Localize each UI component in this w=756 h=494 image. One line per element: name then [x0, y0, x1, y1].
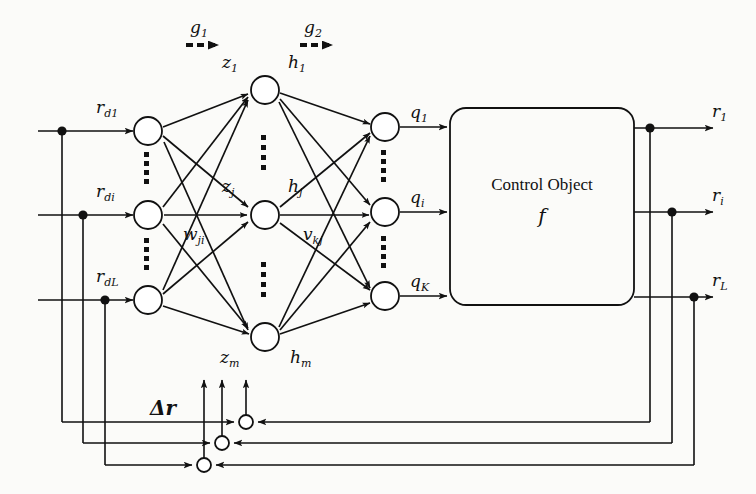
label-hj: hj: [288, 176, 303, 199]
input-layer-ellipsis-upper: [144, 152, 149, 184]
hidden-layer-ellipsis-lower: [261, 262, 266, 297]
label-q1: q1: [410, 102, 428, 125]
input-tap-dot-L: [100, 295, 109, 304]
output-layer-ellipsis-upper: [381, 150, 386, 182]
output-layer-nodes: [371, 113, 399, 310]
summing-junction-L: [197, 458, 211, 472]
summing-junction-1: [239, 415, 253, 429]
label-hm: hm: [290, 347, 311, 370]
label-qi: qi: [410, 187, 424, 210]
label-delta-r: Δr: [149, 396, 178, 420]
output-tap-dot-1: [645, 123, 654, 132]
input-node-1: [134, 117, 162, 145]
output-to-plant-wires: [400, 127, 447, 296]
input-tap-dot-i: [78, 210, 87, 219]
input-to-hidden-synapses: [163, 94, 249, 334]
output-tap-dot-L: [689, 292, 698, 301]
hidden-node-m: [251, 323, 279, 351]
network-control-diagram: g1 g2 rd1 rdi rdL z1 zj zm h1 hj: [0, 0, 756, 494]
label-rdi: rdi: [96, 181, 115, 204]
control-object-function: f: [536, 204, 549, 228]
label-ri: ri: [712, 185, 724, 208]
left-feedback-taps: [57, 126, 109, 465]
output-node-i: [371, 198, 399, 226]
diagram-canvas: g1 g2 rd1 rdi rdL z1 zj zm h1 hj: [0, 0, 756, 494]
label-r1: r1: [712, 101, 727, 124]
label-qK: qK: [410, 271, 430, 294]
feedback-return-wires: [62, 422, 694, 465]
plant-output-wires: [634, 123, 713, 465]
output-node-1: [371, 113, 399, 141]
summing-junction-i: [215, 436, 229, 450]
label-zj: zj: [221, 176, 235, 199]
label-rL: rL: [712, 270, 727, 293]
input-tap-dot-1: [57, 126, 66, 135]
label-h1: h1: [288, 52, 306, 75]
hidden-layer-nodes: [251, 76, 279, 351]
hidden-node-j: [251, 201, 279, 229]
output-node-K: [371, 282, 399, 310]
label-g2: g2: [304, 17, 322, 40]
input-layer-nodes: [134, 117, 162, 314]
input-node-i: [134, 201, 162, 229]
control-object-label: Control Object: [491, 175, 593, 194]
output-layer-ellipsis-lower: [381, 236, 386, 268]
output-tap-dot-i: [667, 207, 676, 216]
hidden-layer-ellipsis-upper: [261, 135, 266, 170]
label-zm: zm: [219, 347, 239, 370]
input-node-L: [134, 286, 162, 314]
label-vkj: vkj: [303, 224, 323, 247]
hidden-node-1: [251, 76, 279, 104]
label-rd1: rd1: [96, 97, 118, 120]
label-g1: g1: [190, 17, 208, 40]
label-z1: z1: [221, 52, 238, 75]
input-layer-ellipsis-lower: [144, 238, 149, 270]
hidden-to-output-synapses: [279, 93, 370, 334]
label-rdL: rdL: [96, 266, 119, 289]
